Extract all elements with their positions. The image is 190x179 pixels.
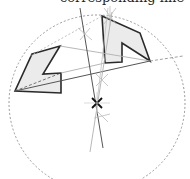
correspondence-line-4 — [30, 16, 102, 56]
bisector-line-gray-1 — [90, 12, 112, 152]
dashed-segment-right — [150, 56, 183, 61]
rotation-center-rays — [84, 92, 110, 114]
correspondence-line-2 — [61, 63, 105, 73]
right-polygon — [102, 16, 150, 63]
rotation-diagram — [0, 0, 190, 179]
